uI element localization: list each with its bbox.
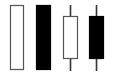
filled-body-rect bbox=[37, 6, 51, 70]
candle-hollow-no-wick bbox=[11, 6, 24, 70]
candle-filled-with-wick bbox=[90, 5, 104, 71]
candlestick-svg bbox=[0, 0, 114, 80]
candle-filled-no-wick bbox=[37, 6, 51, 70]
hollow-body-rect bbox=[11, 6, 24, 70]
candlestick-diagram bbox=[0, 0, 114, 80]
hollow-body-rect bbox=[64, 17, 78, 59]
filled-body-rect bbox=[90, 17, 104, 59]
candle-hollow-with-wick bbox=[64, 5, 78, 71]
candles-group bbox=[11, 5, 104, 71]
